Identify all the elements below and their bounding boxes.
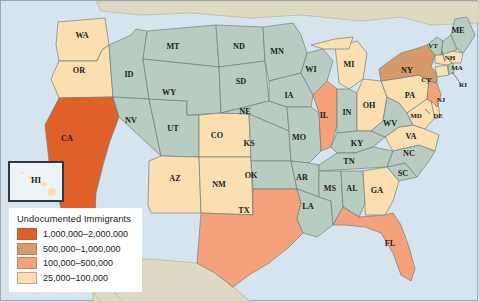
label-ME: ME bbox=[451, 26, 465, 35]
label-ID: ID bbox=[124, 70, 133, 79]
map-legend: Undocumented Immigrants 1,000,000–2,000,… bbox=[9, 208, 142, 292]
state-OK[interactable] bbox=[251, 161, 297, 189]
label-IA: IA bbox=[284, 91, 293, 100]
label-NJ: NJ bbox=[437, 96, 446, 104]
legend-label-4: 25,000–100,000 bbox=[43, 273, 108, 283]
state-FL[interactable] bbox=[333, 207, 415, 281]
hawaii-inset-box[interactable]: HI bbox=[8, 161, 64, 202]
canada-landmass bbox=[96, 1, 479, 25]
state-CO[interactable] bbox=[199, 113, 251, 157]
label-WY: WY bbox=[162, 88, 176, 97]
label-GA: GA bbox=[371, 186, 383, 195]
label-ND: ND bbox=[233, 42, 245, 51]
label-NC: NC bbox=[403, 149, 415, 158]
hawaii-island-hawaii bbox=[47, 188, 56, 196]
label-PA: PA bbox=[405, 91, 415, 100]
label-AL: AL bbox=[346, 184, 358, 193]
label-IN: IN bbox=[342, 108, 351, 117]
label-NE: NE bbox=[239, 107, 251, 116]
state-AZ[interactable] bbox=[148, 156, 201, 213]
label-KS: KS bbox=[244, 139, 255, 148]
label-OH: OH bbox=[363, 101, 376, 110]
label-OK: OK bbox=[245, 171, 258, 180]
label-MA: MA bbox=[451, 64, 463, 72]
label-OR: OR bbox=[73, 66, 85, 75]
state-CT[interactable] bbox=[435, 65, 449, 77]
legend-item[interactable]: 1,000,000–2,000,000 bbox=[17, 228, 135, 240]
legend-item[interactable]: 100,000–500,000 bbox=[17, 257, 135, 269]
state-MI-upper-peninsula[interactable] bbox=[311, 37, 353, 49]
state-ID[interactable] bbox=[109, 29, 149, 99]
label-DE: DE bbox=[433, 112, 443, 120]
label-NY: NY bbox=[401, 66, 413, 75]
label-VT: VT bbox=[428, 42, 438, 50]
legend-item[interactable]: 25,000–100,000 bbox=[17, 272, 135, 284]
label-SD: SD bbox=[236, 77, 247, 86]
label-MI: MI bbox=[344, 60, 355, 69]
label-VA: VA bbox=[406, 132, 417, 141]
legend-label-1: 1,000,000–2,000,000 bbox=[43, 229, 128, 239]
hawaii-label: HI bbox=[10, 175, 62, 185]
label-CT: CT bbox=[421, 76, 431, 84]
label-TN: TN bbox=[343, 157, 354, 166]
label-MD: MD bbox=[410, 112, 422, 120]
label-KY: KY bbox=[351, 139, 363, 148]
label-CO: CO bbox=[211, 131, 223, 140]
legend-label-3: 100,000–500,000 bbox=[43, 258, 113, 268]
legend-swatch-1 bbox=[17, 228, 37, 240]
label-NV: NV bbox=[125, 116, 137, 125]
label-FL: FL bbox=[385, 239, 396, 248]
legend-item[interactable]: 500,000–1,000,000 bbox=[17, 243, 135, 255]
legend-swatch-3 bbox=[17, 257, 37, 269]
label-CA: CA bbox=[61, 134, 73, 143]
leader-line-RI bbox=[452, 72, 461, 84]
label-WV: WV bbox=[383, 119, 397, 128]
label-RI: RI bbox=[459, 81, 467, 89]
label-IL: IL bbox=[320, 111, 329, 120]
legend-swatch-4 bbox=[17, 272, 37, 284]
label-SC: SC bbox=[398, 169, 409, 178]
hawaii-island-kauai bbox=[20, 171, 24, 174]
label-WA: WA bbox=[75, 31, 88, 40]
legend-swatch-2 bbox=[17, 243, 37, 255]
label-MT: MT bbox=[166, 42, 180, 51]
label-AR: AR bbox=[296, 173, 308, 182]
label-MO: MO bbox=[292, 133, 306, 142]
label-WI: WI bbox=[305, 65, 316, 74]
legend-title: Undocumented Immigrants bbox=[17, 214, 135, 224]
label-MN: MN bbox=[270, 47, 284, 56]
label-UT: UT bbox=[167, 124, 179, 133]
label-MS: MS bbox=[324, 184, 337, 193]
label-AZ: AZ bbox=[169, 174, 181, 183]
label-LA: LA bbox=[302, 202, 313, 211]
label-NM: NM bbox=[212, 180, 226, 189]
legend-label-2: 500,000–1,000,000 bbox=[43, 244, 121, 254]
label-TX: TX bbox=[238, 206, 249, 215]
